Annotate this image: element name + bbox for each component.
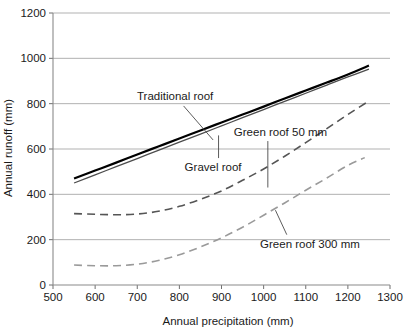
x-axis-ticks-group: 5006007008009001000110012001300 <box>43 285 402 303</box>
x-tick-label-800: 800 <box>170 291 189 303</box>
x-tick-label-1000: 1000 <box>251 291 277 303</box>
y-tick-label-1000: 1000 <box>20 52 46 64</box>
y-tick-label-0: 0 <box>40 279 46 291</box>
x-tick-label-900: 900 <box>212 291 231 303</box>
annotation-label-green-roof-50: Green roof 50 mm <box>234 126 327 138</box>
annotation-label-green-roof-300: Green roof 300 mm <box>260 238 360 250</box>
y-tick-label-400: 400 <box>27 188 46 200</box>
runoff-vs-precipitation-chart: 020040060080010001200 500600700800900100… <box>0 0 411 330</box>
chart-container: 020040060080010001200 500600700800900100… <box>0 0 411 330</box>
annotation-label-traditional-roof: Traditional roof <box>137 90 214 102</box>
y-tick-label-200: 200 <box>27 234 46 246</box>
y-tick-label-600: 600 <box>27 143 46 155</box>
x-tick-label-500: 500 <box>43 291 62 303</box>
annotation-label-gravel-roof: Gravel roof <box>185 161 243 173</box>
y-tick-label-800: 800 <box>27 98 46 110</box>
y-axis-title: Annual runoff (mm) <box>2 99 14 197</box>
x-tick-label-1200: 1200 <box>335 291 361 303</box>
y-axis-ticks-group: 020040060080010001200 <box>20 7 53 291</box>
annotations-group: Traditional roofGravel roofGreen roof 50… <box>137 90 360 250</box>
x-tick-label-1100: 1100 <box>293 291 318 303</box>
x-tick-label-700: 700 <box>128 291 147 303</box>
y-tick-label-1200: 1200 <box>20 7 46 19</box>
leader-line-green-roof-300 <box>275 210 286 234</box>
x-tick-label-1300: 1300 <box>377 291 403 303</box>
series-line-green-roof-50-mm <box>74 101 369 215</box>
x-axis-title: Annual precipitation (mm) <box>162 315 293 327</box>
x-tick-label-600: 600 <box>86 291 105 303</box>
